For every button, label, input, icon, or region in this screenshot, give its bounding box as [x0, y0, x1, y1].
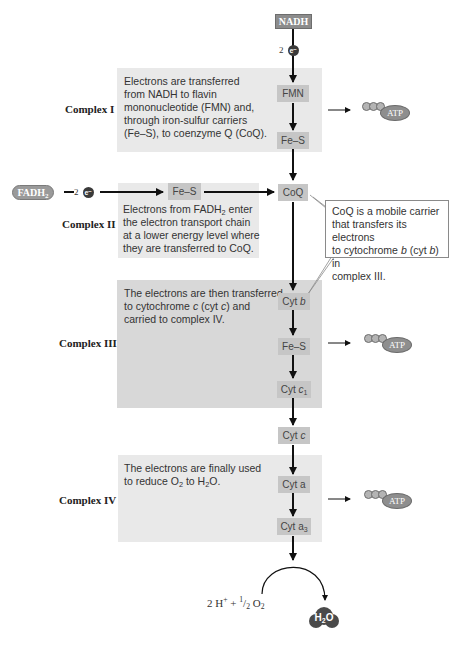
text-line: to cytochrome b (cyt b) in: [332, 244, 442, 270]
text-line: complex III.: [332, 270, 442, 283]
carrier-cyt-c: Cyt c: [278, 427, 310, 444]
coq-callout: CoQ is a mobile carrier that transfers i…: [325, 200, 449, 258]
carrier-cyt-a: Cyt a: [278, 476, 310, 493]
text-line: CoQ is a mobile carrier: [332, 205, 442, 218]
electron-count: 2: [74, 187, 79, 197]
text-line: they are transferred to CoQ.: [123, 242, 263, 255]
atp-badge-complex-iii: ATP: [364, 332, 414, 354]
complex-ii-description: Electrons from FADH2 enter the electron …: [123, 203, 263, 255]
nadh-box: NADH: [275, 14, 312, 29]
atp-badge-complex-iv: ATP: [364, 488, 414, 510]
text-line: at a lower energy level where: [123, 229, 263, 242]
fadh2-subscript: 2: [45, 192, 49, 200]
complex-iv-label: Complex IV: [59, 494, 116, 506]
complex-iii-description: The electrons are then transferred to cy…: [124, 287, 284, 326]
carrier-coq: CoQ: [278, 184, 308, 201]
atp-badge-complex-i: ATP: [362, 100, 412, 122]
complex-ii-label: Complex II: [62, 218, 115, 230]
text-line: to reduce O2 to H2O.: [124, 475, 274, 488]
carrier-cyt-c1: Cyt c1: [277, 381, 311, 398]
fadh2-pill: FADH2: [12, 185, 54, 200]
text-line: The electrons are then transferred: [124, 287, 284, 300]
electron-count: 2: [279, 45, 284, 55]
carrier-cyt-a3: Cyt a3: [277, 518, 311, 535]
atp-icon: ATP: [382, 337, 412, 353]
text-line: Electrons from FADH2 enter: [123, 203, 263, 216]
text-line: (Fe–S), to coenzyme Q (CoQ).: [124, 127, 274, 140]
text-line: to cytochrome c (cyt c) and: [124, 300, 284, 313]
carrier-fe-s-complex-iii: Fe–S: [278, 338, 310, 355]
water-label: H2O: [315, 612, 334, 623]
complex-iv-description: The electrons are finally used to reduce…: [124, 462, 274, 488]
text-line: carried to complex IV.: [124, 313, 284, 326]
carrier-fe-s-complex-i: Fe–S: [277, 132, 309, 149]
electron-icon: e⁻: [83, 187, 94, 198]
complex-iii-label: Complex III: [59, 337, 117, 349]
atp-icon: ATP: [382, 493, 412, 509]
atp-icon: ATP: [380, 105, 410, 121]
reactants-label: 2 H+ + 1/2 O2: [207, 597, 265, 609]
carrier-cyt-b: Cyt b: [278, 293, 310, 310]
electron-icon: e⁻: [288, 45, 299, 56]
water-molecule: H2O: [309, 606, 339, 630]
text-line: mononucleotide (FMN) and,: [124, 101, 274, 114]
text-line: from NADH to flavin: [124, 88, 274, 101]
complex-i-description: Electrons are transferred from NADH to f…: [124, 75, 274, 140]
text-line: Electrons are transferred: [124, 75, 274, 88]
text-line: through iron-sulfur carriers: [124, 114, 274, 127]
text-line: the electron transport chain: [123, 216, 263, 229]
carrier-fmn: FMN: [277, 85, 309, 102]
complex-i-label: Complex I: [65, 103, 114, 115]
text-line: The electrons are finally used: [124, 462, 274, 475]
fadh2-label: FADH: [17, 187, 45, 198]
carrier-fe-s-complex-ii: Fe–S: [168, 183, 201, 200]
text-line: that transfers its electrons: [332, 218, 442, 244]
